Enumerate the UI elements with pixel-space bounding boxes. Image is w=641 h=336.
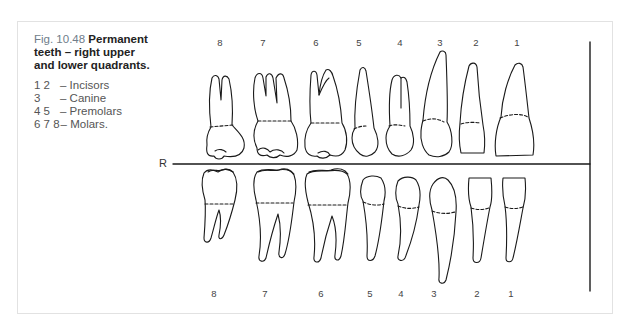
lower-tooth-7 [254, 169, 296, 261]
upper-tooth-8 [207, 75, 245, 159]
upper-tooth-6 [305, 69, 347, 158]
lower-tooth-4 [396, 177, 420, 260]
lower-tooth-8 [202, 169, 237, 242]
lower-tooth-6 [305, 169, 350, 262]
lower-tooth-2 [468, 178, 492, 263]
upper-tooth-3 [421, 51, 452, 157]
lower-tooth-5 [361, 176, 385, 261]
teeth-diagram [0, 0, 641, 336]
upper-tooth-5 [352, 67, 378, 156]
lower-tooth-1 [503, 178, 526, 262]
lower-tooth-3 [430, 178, 456, 284]
upper-tooth-7 [254, 74, 298, 158]
upper-tooth-4 [386, 75, 414, 156]
upper-tooth-1 [495, 63, 534, 156]
upper-tooth-2 [459, 63, 484, 153]
